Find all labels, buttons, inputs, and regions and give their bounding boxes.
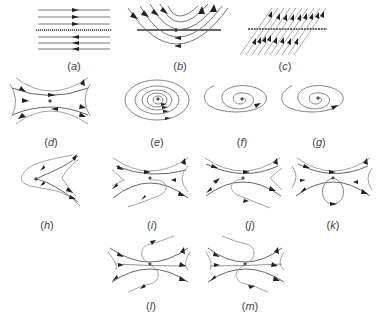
panel-b-diagram	[128, 4, 228, 48]
panel-label-b: (b)	[173, 60, 186, 72]
panel-label-h: (h)	[40, 219, 53, 231]
panel-label-m: (m)	[242, 300, 259, 312]
panel-k-diagram	[292, 158, 372, 206]
panel-a-diagram	[36, 8, 112, 51]
panel-e-diagram	[125, 80, 189, 120]
panel-j-diagram	[205, 158, 282, 208]
panel-c-diagram	[240, 8, 327, 55]
panel-label-g: (g)	[312, 136, 325, 148]
panel-label-j: (j)	[245, 219, 255, 231]
panel-i-diagram	[112, 158, 188, 207]
panel-label-i: (i)	[147, 219, 157, 231]
panel-l-diagram	[108, 236, 190, 292]
phase-portraits-figure	[0, 0, 381, 318]
panel-g-diagram	[282, 86, 344, 112]
panel-f-diagram	[204, 86, 266, 112]
panel-d-diagram	[10, 78, 90, 124]
panel-label-e: (e)	[150, 136, 163, 148]
panel-label-l: (l)	[146, 300, 156, 312]
panel-m-diagram	[206, 236, 284, 292]
panel-label-d: (d)	[44, 136, 57, 148]
panel-label-k: (k)	[327, 219, 340, 231]
panel-label-f: (f)	[237, 136, 247, 148]
panel-h-diagram	[22, 154, 80, 206]
panel-label-a: (a)	[67, 60, 80, 72]
panel-label-c: (c)	[279, 60, 292, 72]
